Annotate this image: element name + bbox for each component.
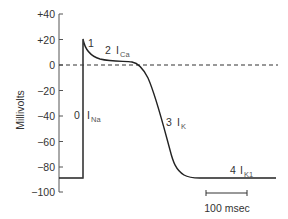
- action-potential-curve: [59, 39, 276, 178]
- phase-2-annotation: 2 I Ca: [105, 44, 130, 59]
- scale-bar-label: 100 msec: [204, 202, 250, 214]
- svg-text:I: I: [240, 164, 243, 176]
- phase-1-annotation: 1: [88, 37, 94, 49]
- svg-text:K: K: [181, 122, 186, 131]
- svg-text:Na: Na: [91, 115, 101, 124]
- phase-4-annotation: 4 I K1: [230, 164, 253, 179]
- y-tick-label: +20: [37, 34, 55, 46]
- phase-0-annotation: 0 I Na: [74, 109, 101, 124]
- svg-text:1: 1: [88, 37, 94, 49]
- y-tick-labels: +40 +20 0 −20 −40 −60 −80 −100: [31, 8, 55, 198]
- y-tick-label: −80: [37, 161, 55, 173]
- y-tick-label: −100: [31, 186, 55, 198]
- time-scale-bar: [206, 190, 247, 196]
- svg-text:I: I: [116, 44, 119, 56]
- svg-text:K1: K1: [244, 170, 253, 179]
- svg-text:I: I: [177, 116, 180, 128]
- y-tick-label: 0: [49, 59, 55, 71]
- y-tick-label: −40: [37, 110, 55, 122]
- svg-text:4: 4: [230, 164, 236, 176]
- svg-text:I: I: [87, 109, 90, 121]
- phase-3-annotation: 3 I K: [166, 116, 186, 131]
- y-ticks: [59, 14, 63, 192]
- y-axis-label: Millivolts: [14, 90, 26, 130]
- y-tick-label: −20: [37, 85, 55, 97]
- action-potential-chart: +40 +20 0 −20 −40 −60 −80 −100 Millivolt…: [0, 0, 288, 219]
- svg-text:3: 3: [166, 116, 172, 128]
- y-tick-label: +40: [37, 8, 55, 20]
- svg-text:0: 0: [74, 109, 80, 121]
- svg-text:Ca: Ca: [120, 50, 130, 59]
- svg-text:2: 2: [105, 44, 111, 56]
- y-tick-label: −60: [37, 136, 55, 148]
